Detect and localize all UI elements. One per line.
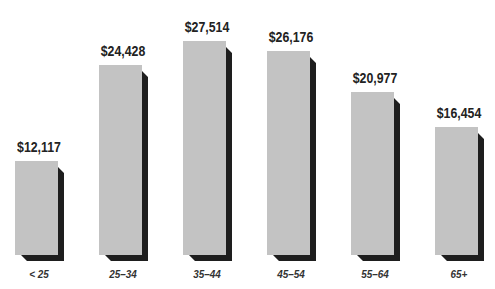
- value-label: $16,454: [423, 105, 493, 121]
- bar-chart: $12,117< 25$24,42825–34$27,51435–44$26,1…: [0, 0, 495, 289]
- value-label: $27,514: [171, 19, 241, 35]
- bar: [267, 51, 310, 255]
- bar: [183, 41, 226, 255]
- value-label: $20,977: [339, 70, 409, 86]
- category-label: 35–44: [180, 268, 234, 280]
- category-label: 25–34: [96, 268, 150, 280]
- category-label: < 25: [12, 268, 66, 280]
- value-label: $24,428: [87, 43, 157, 59]
- bar: [15, 161, 58, 255]
- bar: [435, 127, 478, 255]
- category-label: 45–54: [264, 268, 318, 280]
- category-label: 65+: [432, 268, 486, 280]
- value-label: $12,117: [3, 139, 73, 155]
- bar: [99, 65, 142, 255]
- value-label: $26,176: [255, 29, 325, 45]
- bar: [351, 92, 394, 255]
- category-label: 55–64: [348, 268, 402, 280]
